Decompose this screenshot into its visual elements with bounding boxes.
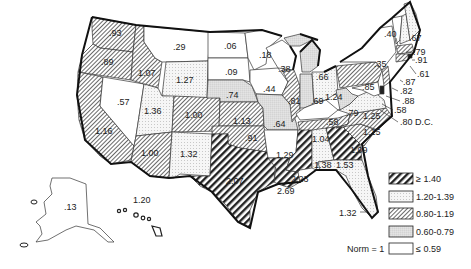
label-ms: 2.23 <box>291 174 309 184</box>
legend-swatch-light-dots <box>389 191 413 202</box>
legend-swatch-blank <box>389 243 413 254</box>
us-choropleth-map: .93 .89 1.16 .57 1.07 .29 1.27 1.36 1.00… <box>0 0 471 269</box>
label-nm: 1.32 <box>180 149 198 159</box>
legend-label-3: 0.80-1.19 <box>416 209 454 219</box>
label-nj: .82 <box>400 86 413 96</box>
alaska-island <box>31 200 37 204</box>
label-sd: .09 <box>225 67 238 77</box>
label-mt: .29 <box>173 42 186 52</box>
state-ma <box>396 44 414 54</box>
label-md: .58 <box>394 105 407 115</box>
label-mn: .18 <box>259 50 272 60</box>
label-ca: 1.16 <box>95 126 113 136</box>
alaska-island <box>20 243 28 247</box>
label-ks: 1.13 <box>233 116 251 126</box>
label-fl: 1.32 <box>339 208 357 218</box>
label-pa: .85 <box>362 82 375 92</box>
legend-swatch-light-hatch <box>389 208 413 219</box>
norm-label: Norm = 1 <box>347 244 384 254</box>
label-dc: .80 D.C. <box>400 117 433 127</box>
legend-label-5: ≤ 0.59 <box>416 244 441 254</box>
state-nj <box>382 66 390 86</box>
label-oh: 1.24 <box>325 92 343 102</box>
label-mi: .66 <box>316 72 329 82</box>
label-ny: .35 <box>374 59 387 69</box>
label-ut: 1.36 <box>144 106 162 116</box>
label-ma: .91 <box>415 55 428 65</box>
label-ri: .61 <box>417 69 430 79</box>
label-or: .89 <box>101 57 114 67</box>
label-ia: .44 <box>263 84 276 94</box>
label-wv: .79 <box>346 108 359 118</box>
label-wa: .93 <box>109 28 122 38</box>
label-ga: 1.53 <box>336 160 354 170</box>
label-in: .69 <box>311 96 324 106</box>
label-ok: .91 <box>245 133 258 143</box>
state-de <box>380 86 384 94</box>
legend-swatch-heavy <box>389 173 413 184</box>
label-sc: 1.09 <box>350 145 368 155</box>
label-ak: .13 <box>64 202 77 212</box>
label-ar: 1.29 <box>276 150 294 160</box>
label-il: .81 <box>288 96 301 106</box>
label-nd: .06 <box>224 41 237 51</box>
label-va: 1.25 <box>363 111 381 121</box>
label-ne: .74 <box>226 90 239 100</box>
legend-label-1: ≥ 1.40 <box>416 174 441 184</box>
label-la: 2.69 <box>277 186 295 196</box>
label-ky: .58 <box>326 117 339 127</box>
label-vt: .40 <box>384 29 397 39</box>
label-tn: 1.04 <box>312 134 330 144</box>
label-wi: .38 <box>278 64 291 74</box>
label-tx: 2.07 <box>226 176 244 186</box>
label-az: 1.00 <box>141 148 159 158</box>
label-hi: 1.20 <box>133 195 151 205</box>
legend-label-4: 0.60-0.79 <box>416 227 454 237</box>
label-mo: .64 <box>273 119 286 129</box>
label-me: .67 <box>409 33 422 43</box>
label-co: 1.00 <box>185 110 203 120</box>
label-al: 1.38 <box>314 160 332 170</box>
label-nv: .57 <box>117 97 130 107</box>
label-id: 1.07 <box>138 68 156 78</box>
legend-swatch-dense-dots <box>389 226 413 237</box>
label-nc: 1.15 <box>363 127 381 137</box>
legend-label-2: 1.20-1.39 <box>416 192 454 202</box>
state-hi <box>117 208 162 236</box>
label-wy: 1.27 <box>176 75 194 85</box>
